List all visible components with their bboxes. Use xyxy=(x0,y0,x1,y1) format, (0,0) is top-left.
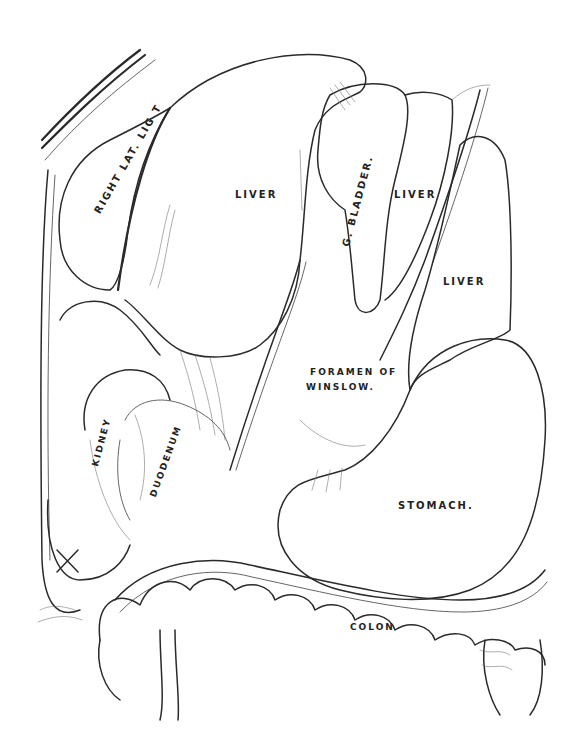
kidney-region xyxy=(48,301,170,580)
label-liver-main: LIVER xyxy=(235,189,277,200)
anatomy-drawing xyxy=(0,0,588,743)
x-mark xyxy=(57,550,78,572)
label-foramen-line2: WINSLOW. xyxy=(306,382,375,392)
label-foramen-line1: FORAMEN OF xyxy=(310,367,397,377)
label-liver-mid: LIVER xyxy=(394,189,436,200)
duodenum xyxy=(118,400,230,520)
label-liver-right: LIVER xyxy=(443,276,485,287)
liver-main xyxy=(125,54,366,357)
anatomy-figure: RIGHT LAT. LIG T LIVER G. BLADDER. LIVER… xyxy=(0,0,588,743)
hatching-lower-left xyxy=(38,606,82,622)
right-lat-lig-lobe xyxy=(59,108,170,290)
label-stomach: STOMACH. xyxy=(398,500,474,511)
stomach xyxy=(278,339,545,600)
hepatic-ducts xyxy=(180,260,306,470)
liver-mid xyxy=(380,85,490,360)
label-colon: COLON xyxy=(350,622,395,632)
